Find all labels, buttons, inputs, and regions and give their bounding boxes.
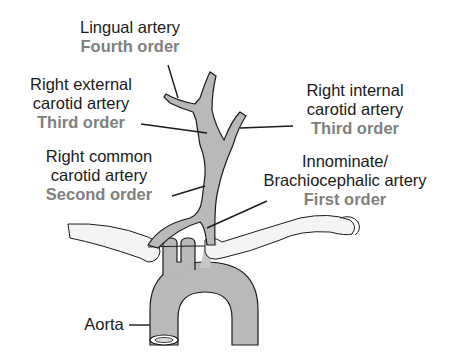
right-external-carotid-order: Third order	[16, 113, 146, 132]
label-right-common-carotid: Right common carotid artery Second order	[34, 147, 164, 204]
right-external-carotid-name-line1: Right external	[16, 75, 146, 94]
right-external-carotid-name-line2: carotid artery	[16, 94, 146, 113]
innominate-name-line2: Brachiocephalic artery	[245, 171, 445, 190]
right-common-carotid-order: Second order	[34, 185, 164, 204]
right-internal-carotid-order: Third order	[290, 119, 420, 138]
label-right-external-carotid: Right external carotid artery Third orde…	[16, 75, 146, 132]
right-internal-carotid-name-line1: Right internal	[290, 81, 420, 100]
lingual-artery-name: Lingual artery	[70, 18, 190, 37]
aorta-name: Aorta	[78, 315, 130, 334]
label-innominate-artery: Innominate/ Brachiocephalic artery First…	[245, 152, 445, 209]
right-common-carotid-name-line2: carotid artery	[34, 166, 164, 185]
aorta-illustration	[150, 238, 258, 345]
label-aorta: Aorta	[78, 315, 130, 334]
right-internal-carotid-name-line2: carotid artery	[290, 100, 420, 119]
lingual-artery-order: Fourth order	[70, 37, 190, 56]
innominate-order: First order	[245, 190, 445, 209]
label-lingual-artery: Lingual artery Fourth order	[70, 18, 190, 56]
label-right-internal-carotid: Right internal carotid artery Third orde…	[290, 81, 420, 138]
right-common-carotid-name-line1: Right common	[34, 147, 164, 166]
innominate-name-line1: Innominate/	[245, 152, 445, 171]
